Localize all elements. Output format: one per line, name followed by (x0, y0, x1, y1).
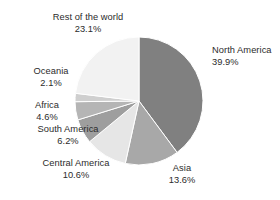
slice-label-value: 13.6% (169, 175, 196, 187)
slice-label-central-america: Central America 10.6% (43, 158, 110, 181)
pie-slice-rest-of-the-world (75, 37, 139, 101)
slice-label-value: 4.6% (35, 112, 59, 124)
slice-label-north-america: North America 39.9% (212, 45, 272, 68)
slice-label-value: 2.1% (34, 78, 69, 90)
slice-label-rest-of-the-world: Rest of the world 23.1% (53, 12, 124, 35)
slice-label-name: Central America (43, 158, 110, 170)
slice-label-value: 39.9% (212, 57, 272, 69)
slice-label-value: 6.2% (37, 136, 98, 148)
slice-label-name: North America (212, 45, 272, 57)
slice-label-asia: Asia 13.6% (169, 163, 196, 186)
slice-label-value: 10.6% (43, 170, 110, 182)
slice-label-name: Rest of the world (53, 12, 124, 24)
pie-chart-figure: Rest of the world 23.1% North America 39… (0, 0, 280, 200)
slice-label-value: 23.1% (53, 24, 124, 36)
slice-label-name: Oceania (34, 66, 69, 78)
slice-label-south-america: South America 6.2% (37, 124, 98, 147)
slice-label-africa: Africa 4.6% (35, 100, 59, 123)
slice-label-name: Asia (169, 163, 196, 175)
slice-label-oceania: Oceania 2.1% (34, 66, 69, 89)
slice-label-name: Africa (35, 100, 59, 112)
slice-label-name: South America (37, 124, 98, 136)
